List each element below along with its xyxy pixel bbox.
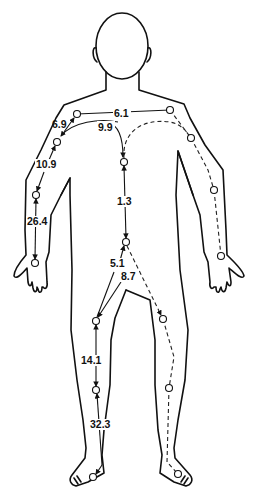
node-sternum (121, 159, 128, 166)
label-torso: 1.3 (117, 195, 132, 207)
forearm-path (35, 199, 36, 259)
body-diagram: 6.1 6.9 9.9 10.9 26.4 1.3 5.1 8.7 14.1 3… (0, 0, 257, 501)
left-inner-arm (61, 178, 70, 195)
node-right-elbow (211, 187, 218, 194)
dashed-upper-arm (191, 138, 214, 190)
shin-to-ankle (96, 465, 102, 474)
label-thigh: 14.1 (81, 354, 102, 366)
node-left-knee (93, 318, 100, 325)
pathways (35, 110, 221, 474)
node-right-shin (166, 385, 173, 392)
node-right-upper-arm (188, 135, 195, 142)
label-upper-arm: 10.9 (36, 158, 57, 170)
node-left-elbow (33, 192, 40, 199)
upper-arm-down (37, 172, 44, 191)
node-left-wrist (32, 260, 39, 267)
node-left-ankle (90, 474, 97, 481)
node-right-wrist (218, 253, 225, 260)
dashed-forearm (214, 190, 221, 256)
right-toes (181, 476, 188, 484)
left-thigh-short (97, 272, 114, 317)
node-left-shoulder (74, 111, 81, 118)
label-chest-arc: 9.9 (98, 121, 113, 133)
measurement-nodes (32, 107, 225, 481)
label-shin: 32.3 (90, 418, 111, 430)
node-left-shin (93, 387, 100, 394)
value-labels: 6.1 6.9 9.9 10.9 26.4 1.3 5.1 8.7 14.1 3… (26, 107, 136, 430)
label-shoulder-to-elbow: 6.9 (52, 118, 67, 130)
left-toes (74, 476, 81, 484)
dashed-chest-arc (124, 121, 191, 158)
body-outline (14, 13, 244, 486)
label-shoulder-span: 6.1 (114, 107, 129, 119)
dashed-thigh (163, 319, 174, 388)
right-inner-arm (178, 151, 193, 195)
label-forearm: 26.4 (27, 215, 48, 227)
node-left-upper-arm (54, 139, 61, 146)
head-outline (96, 13, 148, 79)
node-right-ankle (175, 471, 182, 478)
node-pelvis (123, 239, 130, 246)
node-right-shoulder (167, 107, 174, 114)
label-pelvis-right-knee: 8.7 (121, 270, 136, 282)
node-right-knee (160, 316, 167, 323)
label-pelvis-left-knee: 5.1 (110, 257, 125, 269)
